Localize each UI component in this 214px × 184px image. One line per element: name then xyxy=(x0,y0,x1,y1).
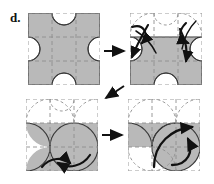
panel-top-left xyxy=(28,13,100,85)
panel-bottom-left xyxy=(26,99,98,171)
figure-canvas xyxy=(0,0,214,184)
arrow-tr-to-bl xyxy=(106,86,124,98)
figure-d: d. xyxy=(0,0,214,184)
panel-bottom-right xyxy=(128,99,200,171)
panel-top-right xyxy=(130,13,202,85)
